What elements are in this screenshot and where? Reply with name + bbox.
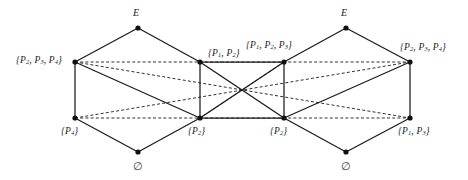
lattice-node-l-bottom[interactable]: [135, 149, 140, 154]
node-label-r-bottom: ∅: [341, 161, 351, 172]
node-label-l-loright: {P2}: [188, 127, 205, 137]
node-label-l-bottom: ∅: [133, 161, 143, 172]
lattice-node-l-top[interactable]: [135, 25, 140, 30]
node-label-l-upright: {P1, P2}: [208, 49, 240, 59]
node-label-r-loleft: {P2}: [270, 127, 287, 137]
lattice-node-r-bottom[interactable]: [343, 149, 348, 154]
node-label-l-top: E: [133, 8, 139, 18]
lattice-edge: [75, 62, 200, 118]
node-label-r-upright: {P2, P3, P4}: [400, 43, 446, 53]
lattice-edges-canvas: [0, 0, 468, 180]
node-label-r-top: E: [341, 8, 347, 18]
lattice-edge: [284, 28, 346, 62]
lattice-figure: E{P2, P3, P4}{P1, P2}{P4}{P2}∅E{P1, P2, …: [0, 0, 468, 180]
lattice-node-l-loright[interactable]: [197, 115, 202, 120]
node-label-r-upleft: {P1, P2, P3}: [246, 41, 292, 51]
node-label-r-loright: {P1, P3}: [398, 127, 430, 137]
lattice-node-l-upright[interactable]: [197, 59, 202, 64]
lattice-edge: [138, 28, 200, 62]
lattice-edge: [284, 62, 410, 118]
lattice-node-r-loleft[interactable]: [281, 115, 286, 120]
lattice-edge: [75, 118, 138, 152]
lattice-node-r-upleft[interactable]: [281, 59, 286, 64]
lattice-node-r-top[interactable]: [343, 25, 348, 30]
lattice-solid-edges: [75, 28, 410, 152]
lattice-node-l-loleft[interactable]: [72, 115, 77, 120]
lattice-node-l-upleft[interactable]: [72, 59, 77, 64]
lattice-edge: [284, 118, 346, 152]
node-label-l-loleft: {P4}: [61, 127, 78, 137]
lattice-node-r-loright[interactable]: [407, 115, 412, 120]
node-label-l-upleft: {P2, P3, P4}: [16, 56, 62, 66]
lattice-edge: [75, 28, 138, 62]
lattice-node-r-upright[interactable]: [407, 59, 412, 64]
